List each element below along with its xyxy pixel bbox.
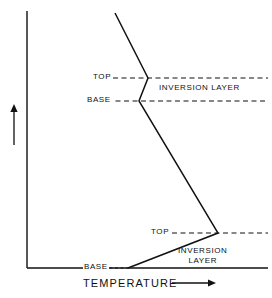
x-axis-title: TEMPERATURE [83,277,177,289]
label-lower-base: BASE [83,263,109,271]
temperature-inversion-diagram: TOP BASE INVERSION LAYER TOP BASE INVERS… [0,0,272,298]
label-upper-top: TOP [92,73,112,81]
label-upper-base: BASE [86,96,112,104]
x-axis-arrow-icon [172,279,216,286]
y-axis-arrow-icon [10,104,17,145]
label-upper-inversion-layer: INVERSION LAYER [158,84,241,92]
label-lower-inversion-line1: INVERSION [178,246,227,256]
label-lower-top: TOP [150,228,170,236]
diagram-canvas [0,0,272,298]
label-lower-inversion-layer: INVERSION LAYER [178,246,227,266]
label-lower-inversion-line2: LAYER [178,256,227,266]
